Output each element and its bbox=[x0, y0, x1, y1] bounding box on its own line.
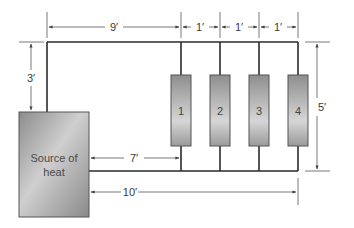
radiator-3: 3 bbox=[249, 75, 269, 146]
radiator-2: 2 bbox=[210, 75, 230, 146]
heat-source: Source of heat bbox=[19, 112, 89, 217]
radiator-3-label: 3 bbox=[256, 105, 262, 117]
dim-9ft-label: 9′ bbox=[110, 21, 118, 33]
radiator-4: 4 bbox=[288, 75, 308, 146]
radiator-1-label: 1 bbox=[178, 105, 184, 117]
heat-source-label-line1: Source of bbox=[30, 152, 78, 164]
dim-5ft-label: 5′ bbox=[318, 101, 326, 113]
dim-1ft-label-b: 1′ bbox=[235, 21, 243, 33]
radiator-1: 1 bbox=[171, 75, 191, 146]
piping-diagram: Source of heat 1 2 3 4 bbox=[0, 0, 354, 228]
dim-7ft-label: 7′ bbox=[130, 152, 138, 164]
dim-10ft-label: 10′ bbox=[123, 186, 137, 198]
dim-3ft-label: 3′ bbox=[27, 72, 35, 84]
dim-1ft-label-a: 1′ bbox=[196, 21, 204, 33]
radiator-2-label: 2 bbox=[217, 105, 223, 117]
dim-1ft-label-c: 1′ bbox=[274, 21, 282, 33]
radiator-4-label: 4 bbox=[295, 105, 301, 117]
heat-source-label-line2: heat bbox=[43, 166, 64, 178]
